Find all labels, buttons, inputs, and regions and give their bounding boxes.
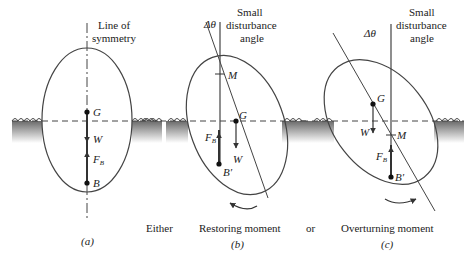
water-left-a — [12, 121, 42, 143]
overturning-moment-label: Overturning moment — [341, 222, 434, 234]
angle-desc-c-3: angle — [410, 32, 434, 44]
angle-desc-b-1: Small — [237, 6, 263, 18]
label-w-c: W — [360, 126, 370, 138]
label-g-c: G — [377, 92, 385, 104]
label-g-b: G — [239, 109, 247, 121]
angle-label-c: Δθ — [363, 27, 376, 39]
angle-desc-c-1: Small — [409, 6, 435, 18]
caption-b: (b) — [231, 238, 244, 251]
connector-or: or — [306, 222, 316, 234]
restoring-moment-label: Restoring moment — [199, 222, 281, 234]
restoring-moment-arrow — [230, 203, 257, 209]
angle-desc-b-3: angle — [240, 32, 264, 44]
label-w-a: W — [93, 133, 103, 145]
point-b-c — [388, 174, 393, 179]
caption-c: (c) — [381, 238, 394, 251]
point-b-a — [84, 180, 89, 185]
label-fb-a: FB — [92, 153, 105, 167]
point-g-c — [370, 101, 375, 106]
panel-b: Δθ Small disturbance angle M G FB W B′ R… — [140, 6, 310, 251]
label-m-c: M — [396, 129, 407, 141]
point-b-b — [216, 161, 221, 166]
panel-c: Δθ Small disturbance angle G W M FB B′ O… — [301, 6, 464, 251]
label-g-a: G — [93, 106, 101, 118]
angle-label-b: Δθ — [203, 18, 216, 30]
label-b-a: B — [93, 177, 100, 189]
axis-label-line2: symmetry — [92, 32, 136, 44]
angle-desc-c-2: disturbance — [396, 19, 447, 31]
body-outline-b — [168, 41, 306, 208]
axis-label-line1: Line of — [98, 19, 130, 31]
overturning-moment-arrow — [385, 199, 416, 203]
panel-a: Line of symmetry G W FB B (a) — [12, 19, 162, 248]
tilted-axis-b — [206, 22, 268, 198]
label-fb-c: FB — [375, 150, 388, 164]
angle-desc-b-2: disturbance — [226, 19, 277, 31]
point-g-b — [233, 118, 238, 123]
tilted-axis-c — [333, 33, 435, 211]
caption-a: (a) — [81, 235, 94, 248]
label-b-c: B′ — [395, 171, 405, 183]
label-m-b: M — [227, 69, 238, 81]
point-g-a — [84, 109, 89, 114]
stability-diagram: Line of symmetry G W FB B (a) Δθ Small — [0, 0, 470, 256]
label-b-b: B′ — [223, 166, 233, 178]
label-fb-b: FB — [204, 131, 217, 145]
connector-either: Either — [146, 222, 173, 234]
label-w-b: W — [233, 153, 243, 165]
